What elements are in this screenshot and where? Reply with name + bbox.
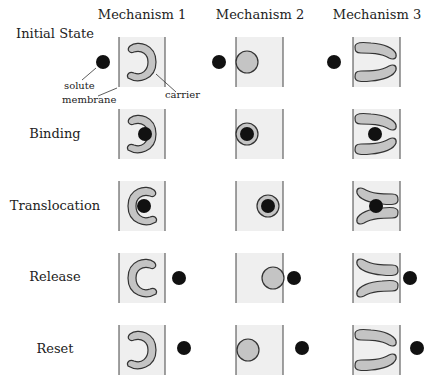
- diagram-canvas: [0, 0, 442, 390]
